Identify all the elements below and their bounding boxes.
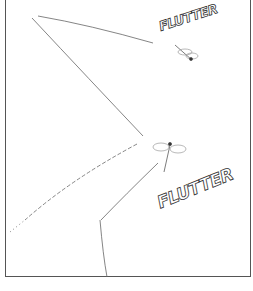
flight-path-lines [0, 0, 253, 291]
dragonfly-icon [153, 142, 186, 172]
dragonfly-icon [175, 45, 198, 61]
